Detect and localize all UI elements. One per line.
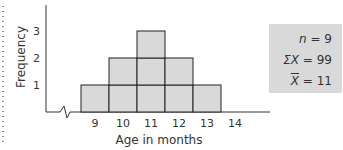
- x-axis-label: Age in months: [116, 133, 203, 147]
- histogram-cell: [137, 85, 165, 112]
- histogram-cell: [109, 58, 137, 85]
- x-tick-label: 9: [92, 117, 99, 130]
- stat-n: n = 9: [299, 32, 332, 46]
- x-tick-label: 12: [172, 117, 186, 130]
- histogram-bars: [81, 31, 221, 112]
- stat-mean: X = 11: [291, 74, 332, 88]
- histogram-cell: [137, 31, 165, 58]
- x-tick-label: 13: [200, 117, 214, 130]
- y-tick-labels: 123: [33, 25, 40, 92]
- summary-stats-box: n = 9 ΣX = 99 X = 11: [269, 24, 342, 93]
- histogram-cell: [165, 85, 193, 112]
- x-tick-labels: 91011121314: [92, 117, 243, 130]
- histogram-cell: [165, 58, 193, 85]
- x-tick-label: 11: [144, 117, 158, 130]
- histogram-cell: [109, 85, 137, 112]
- stat-sum: ΣX = 99: [283, 53, 332, 67]
- y-tick-label: 1: [33, 79, 40, 92]
- x-tick-label: 14: [228, 117, 242, 130]
- histogram-cell: [81, 85, 109, 112]
- y-tick-label: 3: [33, 25, 40, 38]
- histogram-cell: [137, 58, 165, 85]
- y-tick-label: 2: [33, 52, 40, 65]
- x-tick-label: 10: [116, 117, 130, 130]
- histogram-cell: [193, 85, 221, 112]
- y-axis-label: Frequency: [14, 26, 28, 88]
